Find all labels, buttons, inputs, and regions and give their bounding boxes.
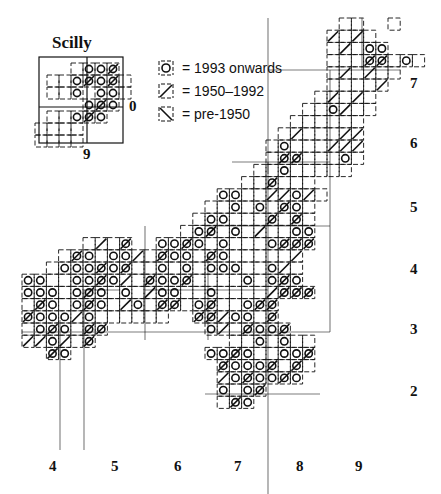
grid-cell	[156, 311, 168, 323]
record-1993-onwards-marker	[134, 301, 141, 308]
grid-cell	[339, 18, 351, 30]
grid-cell	[59, 111, 71, 123]
grid-cell	[339, 30, 351, 42]
record-1950-1992-marker	[145, 287, 155, 297]
record-1950-1992-marker	[218, 373, 228, 383]
record-1993-onwards-marker	[281, 167, 288, 174]
grid-cell	[59, 299, 71, 311]
grid-cell	[229, 286, 241, 298]
record-1993-onwards-marker	[244, 313, 251, 320]
x-axis-label: 9	[355, 458, 363, 475]
record-1993-onwards-marker	[305, 228, 312, 235]
record-1993-onwards-marker	[403, 57, 410, 64]
grid-cell	[388, 67, 400, 79]
grid-cell	[303, 201, 315, 213]
grid-cell	[364, 79, 376, 91]
grid-cell	[290, 140, 302, 152]
grid-cell	[303, 128, 315, 140]
record-1950-1992-marker	[255, 226, 265, 236]
grid-cell	[254, 238, 266, 250]
record-1993-onwards-marker	[73, 301, 80, 308]
record-1993-onwards-marker	[244, 277, 251, 284]
grid-cell	[205, 201, 217, 213]
grid-cell	[364, 103, 376, 115]
record-1993-onwards-marker	[232, 362, 239, 369]
record-1993-onwards-marker	[256, 203, 263, 210]
record-1993-onwards-marker	[220, 240, 227, 247]
inset-frame	[39, 57, 123, 143]
record-1950-1992-marker	[340, 141, 350, 151]
record-1993-onwards-marker	[110, 264, 117, 271]
record-1950-1992-marker	[304, 190, 314, 200]
record-1993-onwards-marker	[73, 77, 80, 84]
grid-cell	[217, 201, 229, 213]
record-1993-onwards-marker	[244, 362, 251, 369]
record-1993-onwards-marker	[159, 264, 166, 271]
record-1993-onwards-marker	[256, 338, 263, 345]
grid-cell	[132, 262, 144, 274]
grid-cell	[315, 189, 327, 201]
grid-cell	[351, 79, 363, 91]
record-1993-onwards-marker	[378, 45, 385, 52]
grid-cell	[22, 299, 34, 311]
record-1993-onwards-marker	[37, 313, 44, 320]
grid-cell	[278, 213, 290, 225]
grid-cell	[327, 67, 339, 79]
record-1950-1992-marker	[35, 336, 45, 346]
y-axis-label: 2	[410, 383, 418, 400]
record-1950-1992-marker	[23, 336, 33, 346]
record-1993-onwards-marker	[171, 240, 178, 247]
grid-cell	[107, 286, 119, 298]
grid-cell	[132, 311, 144, 323]
grid-cell	[327, 116, 339, 128]
grid-cell	[339, 116, 351, 128]
grid-cell	[144, 262, 156, 274]
record-1950-1992-marker	[121, 275, 131, 285]
grid-cell	[71, 123, 83, 135]
grid-cell	[71, 323, 83, 335]
record-1993-onwards-marker	[97, 113, 104, 120]
record-1950-1992-marker	[340, 43, 350, 53]
record-1950-1992-marker	[352, 141, 362, 151]
grid-cell	[242, 286, 254, 298]
record-1993-onwards-marker	[268, 240, 275, 247]
record-1950-1992-marker	[328, 31, 338, 41]
record-1950-1992-marker	[352, 92, 362, 102]
grid-cell	[351, 103, 363, 115]
record-1993-onwards-marker	[220, 350, 227, 357]
grid-cell	[22, 323, 34, 335]
record-1993-onwards-marker	[85, 277, 92, 284]
record-1993-onwards-marker	[220, 252, 227, 259]
grid-cell	[242, 238, 254, 250]
record-1993-onwards-marker	[61, 313, 68, 320]
record-1993-onwards-marker	[293, 374, 300, 381]
grid-cell	[35, 123, 47, 135]
y-axis-label: 6	[410, 135, 418, 152]
record-1950-1992-marker	[352, 129, 362, 139]
grid-cell	[242, 201, 254, 213]
grid-cell	[242, 335, 254, 347]
grid-cell	[144, 311, 156, 323]
record-1993-onwards-marker	[244, 350, 251, 357]
grid-cell	[290, 116, 302, 128]
grid-cell	[290, 164, 302, 176]
record-1950-1992-marker	[340, 129, 350, 139]
y-axis-label: 4	[410, 261, 418, 278]
record-1993-onwards-marker	[171, 252, 178, 259]
grid-cell	[327, 79, 339, 91]
grid-cell	[229, 274, 241, 286]
record-1993-onwards-marker	[122, 252, 129, 259]
record-1993-onwards-marker	[109, 89, 116, 96]
grid-cell	[327, 164, 339, 176]
grid-cell	[59, 123, 71, 135]
grid-cell	[351, 116, 363, 128]
record-1950-1992-marker	[96, 239, 106, 249]
grid-cell	[217, 225, 229, 237]
record-1993-onwards-marker	[232, 313, 239, 320]
grid-cell	[303, 140, 315, 152]
grid-cell	[59, 274, 71, 286]
record-1993-onwards-marker	[232, 203, 239, 210]
record-1993-onwards-marker	[232, 191, 239, 198]
record-1993-onwards-marker	[49, 301, 56, 308]
x-axis-label: 8	[296, 458, 304, 475]
